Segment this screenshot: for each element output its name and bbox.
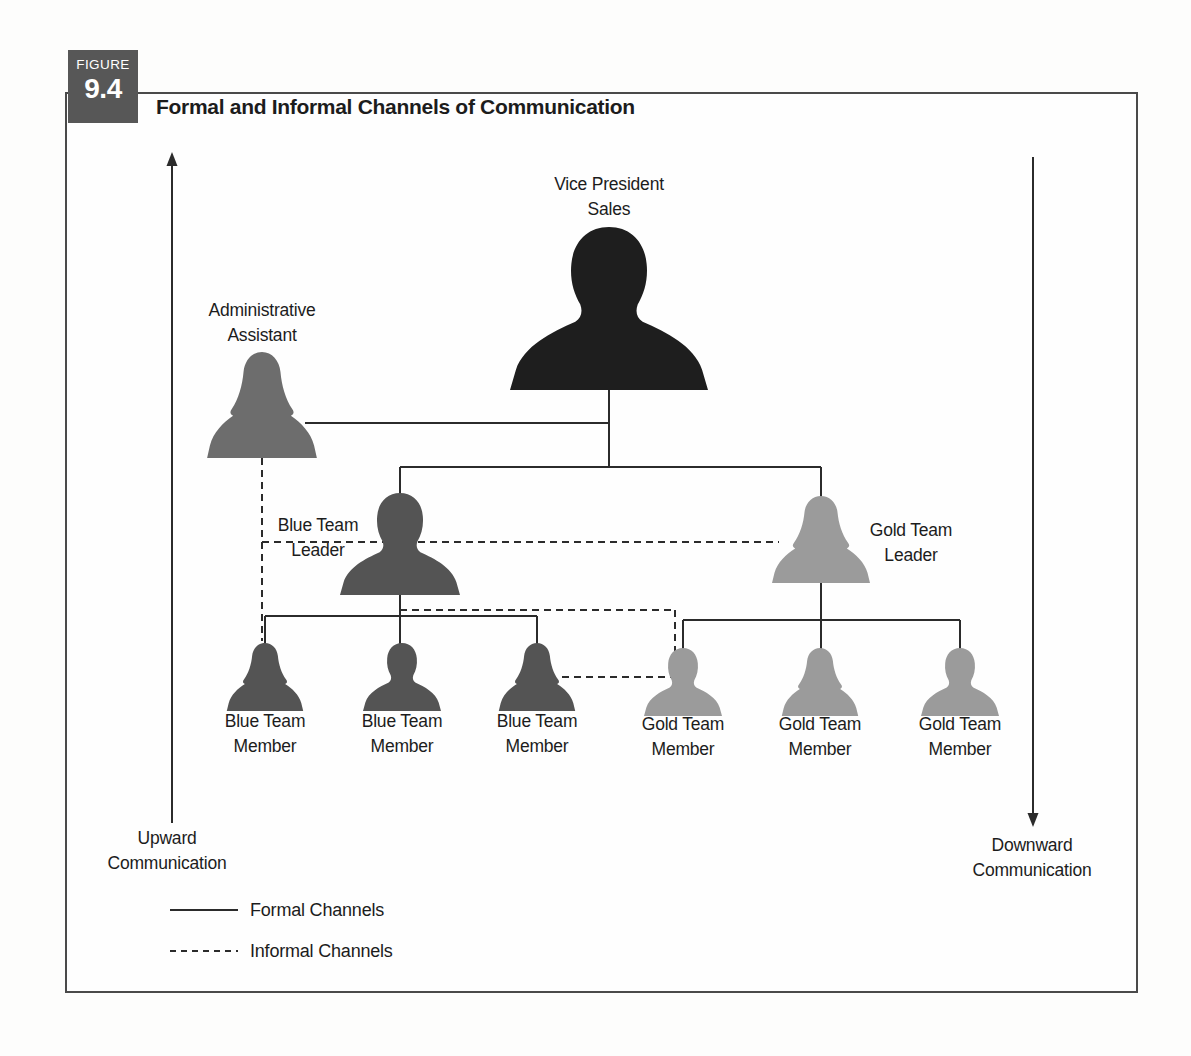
- label-blue-team-member-2-line-1: Blue Team: [362, 709, 443, 734]
- label-downward-communication: DownwardCommunication: [973, 833, 1092, 883]
- legend-informal-label: Informal Channels: [250, 940, 393, 962]
- figure-badge-label: FIGURE: [68, 57, 138, 72]
- label-gold-team-member-1-line-1: Gold Team: [642, 712, 725, 737]
- label-gold-team-member-1-line-2: Member: [642, 737, 725, 762]
- downward-arrow-head: [1028, 813, 1039, 827]
- label-blue-team-member-3-line-2: Member: [497, 734, 578, 759]
- person-silhouette-gold-team-leader: [772, 496, 870, 583]
- legend-formal-label: Formal Channels: [250, 899, 384, 921]
- label-vp-sales-line-2: Sales: [554, 197, 664, 222]
- label-blue-team-leader-line-2: Leader: [278, 538, 359, 563]
- person-silhouette-blue-team-member-1: [227, 643, 303, 711]
- person-silhouette-gold-team-member-3: [921, 648, 999, 716]
- label-blue-team-member-2-line-2: Member: [362, 734, 443, 759]
- label-gold-team-member-2-line-1: Gold Team: [779, 712, 862, 737]
- label-upward-communication: UpwardCommunication: [108, 826, 227, 876]
- label-gold-team-member-3-line-1: Gold Team: [919, 712, 1002, 737]
- label-blue-team-member-1-line-2: Member: [225, 734, 306, 759]
- label-gold-team-member-3: Gold TeamMember: [919, 712, 1002, 762]
- label-admin-assistant-line-2: Assistant: [208, 323, 315, 348]
- label-gold-team-leader-line-1: Gold Team: [870, 518, 953, 543]
- label-downward-communication-line-1: Downward: [973, 833, 1092, 858]
- figure-badge: FIGURE 9.4: [68, 50, 138, 123]
- person-silhouette-gold-team-member-2: [782, 648, 858, 716]
- person-silhouette-blue-team-member-2: [363, 643, 441, 711]
- label-blue-team-member-1-line-1: Blue Team: [225, 709, 306, 734]
- person-silhouette-gold-team-member-1: [644, 648, 722, 716]
- label-gold-team-member-2-line-2: Member: [779, 737, 862, 762]
- label-gold-team-member-3-line-2: Member: [919, 737, 1002, 762]
- label-downward-communication-line-2: Communication: [973, 858, 1092, 883]
- label-gold-team-leader: Gold TeamLeader: [870, 518, 953, 568]
- label-admin-assistant-line-1: Administrative: [208, 298, 315, 323]
- label-vp-sales-line-1: Vice President: [554, 172, 664, 197]
- label-upward-communication-line-2: Communication: [108, 851, 227, 876]
- upward-arrow-head: [167, 152, 178, 166]
- person-silhouette-vp-sales: [510, 227, 708, 390]
- label-upward-communication-line-1: Upward: [108, 826, 227, 851]
- figure-badge-number: 9.4: [68, 73, 138, 105]
- org-chart-diagram: [0, 0, 1191, 1056]
- label-blue-team-leader: Blue TeamLeader: [278, 513, 359, 563]
- person-silhouette-admin-assistant: [207, 352, 317, 458]
- label-blue-team-member-2: Blue TeamMember: [362, 709, 443, 759]
- figure-title: Formal and Informal Channels of Communic…: [156, 95, 635, 119]
- label-gold-team-member-2: Gold TeamMember: [779, 712, 862, 762]
- label-gold-team-member-1: Gold TeamMember: [642, 712, 725, 762]
- label-blue-team-member-3: Blue TeamMember: [497, 709, 578, 759]
- label-admin-assistant: AdministrativeAssistant: [208, 298, 315, 348]
- label-blue-team-member-3-line-1: Blue Team: [497, 709, 578, 734]
- label-blue-team-leader-line-1: Blue Team: [278, 513, 359, 538]
- label-blue-team-member-1: Blue TeamMember: [225, 709, 306, 759]
- label-vp-sales: Vice PresidentSales: [554, 172, 664, 222]
- label-gold-team-leader-line-2: Leader: [870, 543, 953, 568]
